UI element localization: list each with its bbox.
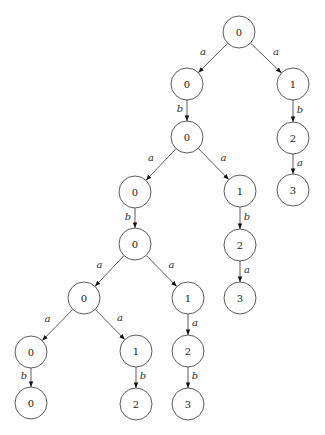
tree-node: 2 (277, 122, 309, 154)
tree-node: 1 (277, 68, 309, 100)
edge: b (21, 368, 31, 387)
node-label: 1 (185, 293, 191, 304)
tree-node: 0 (223, 16, 255, 48)
edge-label: a (297, 157, 303, 168)
edge-label: b (140, 370, 146, 381)
node-label: 1 (133, 346, 139, 357)
tree-node: 2 (120, 388, 152, 420)
edge-label: b (21, 370, 27, 381)
tree-node: 3 (277, 174, 309, 206)
node-label: 0 (81, 293, 87, 304)
edge: b (136, 367, 146, 388)
node-label: 2 (237, 240, 243, 251)
edge: a (42, 309, 73, 340)
edge: b (125, 208, 135, 228)
edge-label: a (148, 152, 154, 163)
tree-node: 0 (15, 387, 47, 419)
edge: a (146, 149, 176, 181)
edge-label: a (169, 259, 175, 270)
node-label: 1 (290, 79, 296, 90)
edge: a (188, 314, 198, 335)
edge-label: a (192, 317, 198, 328)
node-label: 2 (185, 346, 191, 357)
edge-label: a (117, 312, 123, 323)
edge-label: a (273, 46, 279, 57)
edge: a (146, 255, 177, 286)
edge-label: b (192, 370, 198, 381)
edge-label: a (45, 313, 51, 324)
nodes-layer: 0010230102301012023 (15, 16, 309, 420)
node-label: 2 (133, 399, 139, 410)
node-label: 0 (184, 79, 190, 90)
edge-label: b (297, 104, 303, 115)
edge: a (251, 43, 282, 73)
edge: a (293, 154, 303, 174)
tree-node: 0 (119, 228, 151, 260)
tree-node: 0 (15, 336, 47, 368)
node-label: 2 (290, 133, 296, 144)
node-label: 0 (236, 27, 242, 38)
edge: a (198, 43, 227, 72)
tree-node: 3 (224, 282, 256, 314)
node-label: 0 (184, 132, 190, 143)
node-label: 0 (132, 187, 138, 198)
tree-node: 3 (172, 388, 204, 420)
edge: b (240, 207, 250, 229)
node-label: 1 (237, 186, 243, 197)
node-label: 3 (185, 399, 191, 410)
tree-node: 1 (224, 175, 256, 207)
tree-node: 2 (172, 335, 204, 367)
node-label: 0 (28, 398, 34, 409)
edge-label: a (244, 264, 250, 275)
node-label: 0 (132, 239, 138, 250)
node-label: 3 (290, 185, 296, 196)
edge-label: b (244, 211, 250, 222)
edge-label: a (200, 46, 206, 57)
edge-label: a (221, 152, 227, 163)
node-label: 3 (237, 293, 243, 304)
edge: b (293, 100, 303, 122)
edge: a (198, 148, 229, 179)
edge-label: a (97, 259, 103, 270)
edge: b (177, 100, 187, 121)
tree-node: 0 (171, 68, 203, 100)
edge-label: b (177, 103, 183, 114)
tree-node: 1 (172, 282, 204, 314)
edge-label: b (125, 211, 131, 222)
tree-node: 2 (224, 229, 256, 261)
tree-node: 1 (120, 335, 152, 367)
edge: a (240, 261, 250, 282)
edges-layer: aabbaaabbaaaaaabbb (21, 43, 303, 388)
edge: a (95, 256, 124, 287)
tree-node: 0 (68, 282, 100, 314)
edge: a (95, 309, 125, 339)
edge: b (188, 367, 198, 388)
tree-diagram: aabbaaabbaaaaaabbb 0010230102301012023 (0, 0, 325, 435)
node-label: 0 (28, 347, 34, 358)
tree-node: 0 (119, 176, 151, 208)
tree-node: 0 (171, 121, 203, 153)
